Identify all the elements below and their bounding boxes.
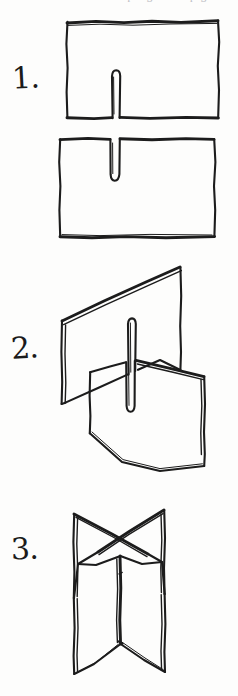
card-b-top-edge-left [60,138,110,139]
card-a-right-edge [218,21,219,117]
upper-card-perspective [61,267,181,404]
card-a-top-edge-doubling [68,23,217,25]
figure-step-3 [0,486,238,696]
card-with-slot-from-bottom [66,21,219,119]
upper-card-right-edge [180,267,181,370]
cross-front-left-outer-thickness [77,599,78,673]
lower-card-right-edge-thickness [201,379,202,454]
card-b-bottom-edge [60,237,215,238]
upper-card-top-edge-thickness [64,271,182,325]
card-a-left-edge [66,22,67,118]
upper-card-left-edge [61,321,62,404]
lower-card-right-edge [204,377,205,466]
figure-step-2-drawing [0,248,238,488]
card-b-left-edge [59,139,60,236]
cross-front-left-outer-edge [74,598,75,674]
cross-rear-left-top-thickness [76,517,147,556]
card-with-slot-from-top [59,138,215,237]
upper-card-left-edge-thickness [65,325,66,403]
assembled-cross [73,510,165,674]
cross-rear-right-outer-thickness [161,514,162,593]
figure-step-1 [0,10,238,250]
cross-front-right-outer-edge [164,594,165,672]
cross-rear-left-outer-thickness [77,518,78,597]
cross-front-right-top-edge [120,556,162,564]
lower-card-left-edge [90,372,91,433]
cropped-header-ghost-text: cut off line of text at the top edge of … [4,0,212,1]
card-b-top-edge-right [120,139,214,140]
card-b-right-edge [214,139,215,236]
upper-card-top-edge [62,267,180,321]
lower-card-top-edge-left [90,362,126,372]
lower-card-top-edge-right [136,360,204,376]
figure-step-2 [0,248,238,488]
card-b-slot [110,139,119,181]
cross-front-right-base-edge [121,644,165,672]
cross-rear-left-top-edge [74,514,148,554]
cross-front-centre-thickness [117,559,118,643]
card-b-bottom-edge-doubling [62,234,212,235]
lower-card-perspective [90,360,205,471]
cropped-header-text: cut off line of text at the top edge of … [0,0,238,9]
cross-rear-left-lower-edge [148,554,165,594]
card-a-bottom-edge-right [120,117,218,118]
cross-front-centre-edge [120,556,121,644]
card-a-bottom-edge-left [67,118,112,119]
card-a-top-edge [67,21,218,23]
figure-step-3-drawing [0,486,238,696]
upper-card-bottom-edge-left [65,374,128,402]
cross-front-right-outer-thickness [161,595,162,671]
cross-front-right-base-doubling [122,642,163,670]
cross-rear-left-outer-edge [73,514,74,598]
figure-step-1-drawing [0,10,238,250]
lower-card-top-edge-thickness [137,364,203,380]
